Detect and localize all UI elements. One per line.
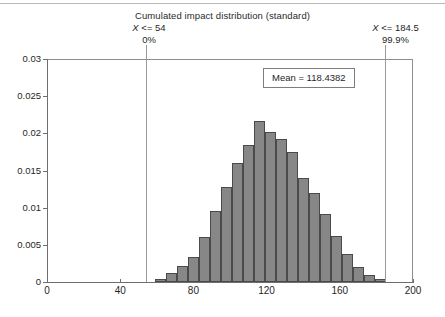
y-axis-tick-label: 0.01: [3, 202, 41, 213]
histogram-bar: [331, 236, 342, 282]
upper-threshold-annotation: X <= 184.5 99.9%: [348, 22, 443, 45]
histogram-bar: [287, 152, 298, 282]
x-axis-tick: [120, 279, 121, 283]
y-axis-tick-label: 0.025: [3, 90, 41, 101]
y-axis-tick-label: 0: [3, 276, 41, 287]
x-axis-tick: [47, 279, 48, 283]
y-axis-tick: [43, 133, 47, 134]
x-axis-tick-label: 160: [331, 285, 348, 296]
y-axis-tick: [43, 59, 47, 60]
y-axis-tick: [43, 245, 47, 246]
plot-area: 00.0050.010.0150.020.0250.03 04080120160…: [47, 59, 413, 283]
histogram-bar: [364, 275, 375, 282]
histogram-bar: [276, 139, 287, 282]
histogram-bar: [232, 163, 243, 282]
x-axis-tick-label: 80: [188, 285, 199, 296]
y-axis-tick: [43, 96, 47, 97]
lower-threshold-line: [146, 45, 147, 282]
upper-threshold-line: [385, 45, 386, 282]
histogram-bar: [254, 121, 265, 282]
x-axis-tick-label: 120: [258, 285, 275, 296]
histogram-bar: [199, 237, 210, 282]
x-axis-tick: [413, 279, 414, 283]
lower-threshold-expression: X <= 54: [104, 22, 194, 34]
upper-threshold-operator: <= 184.5: [381, 22, 419, 33]
lower-threshold-operator: <= 54: [141, 22, 165, 33]
upper-threshold-expression: X <= 184.5: [348, 22, 443, 34]
variable-symbol: X: [372, 22, 378, 33]
plot-top-border: [47, 59, 413, 60]
y-axis-tick-label: 0.02: [3, 127, 41, 138]
y-axis-tick-label: 0.005: [3, 239, 41, 250]
plot-right-border: [412, 59, 413, 283]
y-axis-tick: [43, 208, 47, 209]
top-divider: [0, 3, 445, 4]
y-axis-tick-label: 0.03: [3, 53, 41, 64]
histogram-bar: [309, 193, 320, 282]
histogram-bar: [188, 257, 199, 282]
x-axis-tick-label: 0: [44, 285, 50, 296]
lower-threshold-annotation: X <= 54 0%: [104, 22, 194, 45]
lower-threshold-percent: 0%: [104, 34, 194, 46]
upper-threshold-percent: 99.9%: [348, 34, 443, 46]
y-axis-line: [47, 59, 48, 283]
variable-symbol: X: [132, 22, 138, 33]
histogram-bar: [155, 279, 166, 282]
histogram-bar: [265, 132, 276, 282]
mean-callout-box: Mean = 118.4382: [263, 68, 355, 88]
histogram-bar: [298, 178, 309, 282]
histogram-bar: [320, 214, 331, 282]
y-axis-tick: [43, 171, 47, 172]
histogram-bar: [221, 187, 232, 282]
histogram-bar: [166, 273, 177, 282]
histogram-bar: [243, 145, 254, 282]
chart-title: Cumulated impact distribution (standard): [0, 10, 445, 21]
x-axis-tick-label: 200: [405, 285, 422, 296]
histogram-bar: [353, 267, 364, 282]
y-axis-tick-label: 0.015: [3, 165, 41, 176]
x-axis-tick-label: 40: [115, 285, 126, 296]
histogram-bar: [210, 211, 221, 282]
histogram-bar: [342, 254, 353, 282]
x-axis-line: [47, 282, 413, 283]
histogram-bar: [177, 266, 188, 282]
